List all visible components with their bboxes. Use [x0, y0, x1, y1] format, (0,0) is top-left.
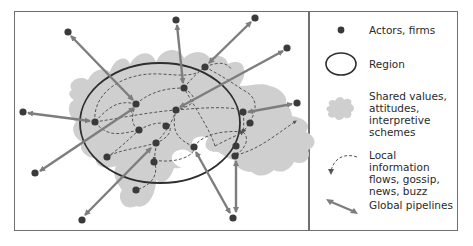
legend-label-actors: Actors, firms [369, 24, 435, 36]
actor-node [293, 99, 300, 106]
legend-item-actors: Actors, firms [310, 22, 458, 46]
legend-item-local-flows: Local information flows, gossip, news, b… [310, 149, 458, 189]
actor-node [150, 158, 157, 165]
actor-node [91, 118, 98, 125]
legend-item-shared-values: Shared values, attitudes, interpretive s… [310, 90, 458, 130]
actor-node [162, 122, 169, 129]
legend-label-local-flows: Local information flows, gossip, news, b… [369, 149, 458, 197]
legend-label-shared-values: Shared values, attitudes, interpretive s… [369, 90, 458, 138]
actor-node [246, 119, 253, 126]
actor-node [201, 63, 208, 70]
legend-label-global-pipelines: Global pipelines [369, 199, 453, 211]
actor-node [172, 16, 179, 23]
actor-node [190, 143, 197, 150]
actor-node [31, 169, 38, 176]
actor-node [19, 108, 26, 115]
actor-node [172, 106, 179, 113]
actor-node [135, 126, 142, 133]
actor-node [132, 100, 139, 107]
legend-item-global-pipelines: Global pipelines [310, 196, 458, 220]
actor-node [132, 186, 139, 193]
dashed-curve-arrow-icon [310, 149, 368, 185]
actor-node [229, 214, 236, 221]
legend-label-region: Region [369, 58, 405, 70]
legend-item-region: Region [310, 52, 458, 82]
actor-node [232, 142, 239, 149]
actor-node [103, 153, 110, 160]
cloud-blob-icon [310, 90, 368, 126]
actor-node [239, 108, 246, 115]
actor-node [283, 44, 290, 51]
actor-node [231, 152, 238, 159]
actor-node [78, 216, 85, 223]
double-arrow-icon [310, 196, 368, 232]
ellipse-icon [310, 52, 368, 88]
shared-values-area [69, 50, 315, 207]
actor-node [64, 28, 71, 35]
actor-node [180, 84, 187, 91]
actor-node [152, 139, 159, 146]
actor-node [251, 14, 258, 21]
